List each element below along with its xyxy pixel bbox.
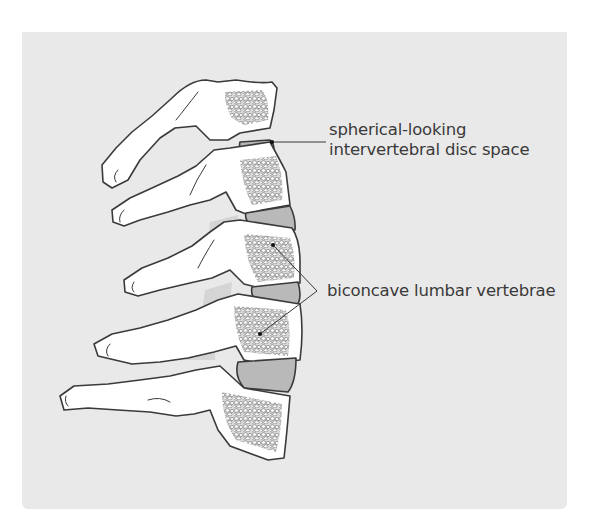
vertebrae-pointer-dot-lower: [258, 332, 262, 336]
disc-space-label-line-1: spherical-looking: [329, 120, 529, 140]
vertebrae-pointer-dot-upper: [271, 243, 275, 247]
disc-space-label: spherical-looking intervertebral disc sp…: [329, 120, 529, 160]
intervertebral-disc-4: [237, 358, 296, 392]
vertebrae-label: biconcave lumbar vertebrae: [327, 281, 555, 301]
disc-pointer-dot: [270, 140, 274, 144]
lumbar-spine-illustration: [0, 0, 589, 531]
vertebra-4: [94, 294, 302, 364]
disc-space-label-line-2: intervertebral disc space: [329, 140, 529, 160]
